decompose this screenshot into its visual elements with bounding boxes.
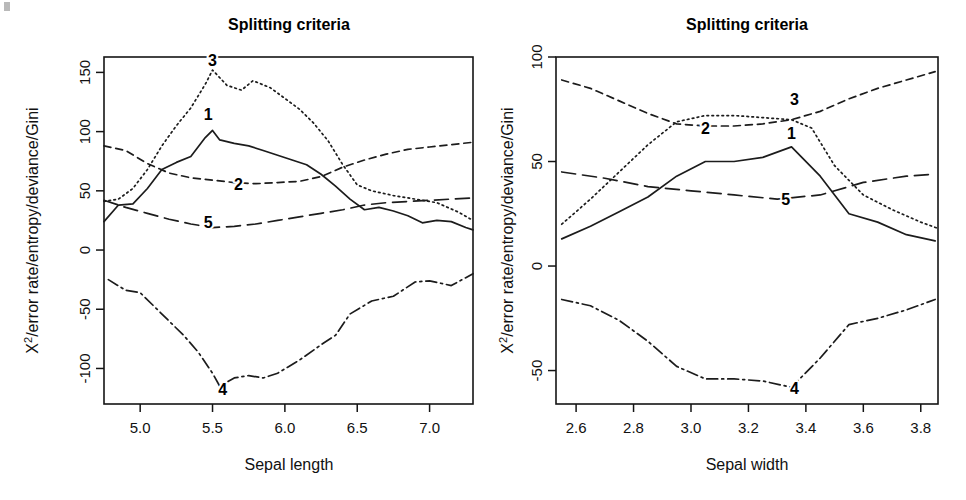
y-axis-tick-label: -50 [76,298,93,320]
plot-box [556,57,938,404]
series-label-1: 1 [204,106,213,123]
series-line-1 [104,130,473,229]
y-axis-tick-label: -100 [76,353,93,383]
series-label-3: 3 [208,52,217,69]
chart-panel-sepal-width: 2.62.83.03.23.43.63.8-50050100Splitting … [483,0,966,500]
y-axis-title: X2/error rate/entropy/deviance/Gini [22,107,41,353]
series-label-3: 3 [790,91,799,108]
chart-title: Splitting criteria [686,16,808,33]
chart-panel-sepal-length: 5.05.56.06.57.0-100-50050100150Splitting… [0,0,483,500]
x-axis-tick-label: 5.5 [202,419,223,436]
series-line-2 [562,72,935,126]
series-line-5 [562,172,935,199]
y-axis-tick-label: 50 [528,153,545,170]
y-axis-tick-label: 0 [528,262,545,270]
x-axis-tick-label: 3.6 [853,419,874,436]
x-axis-tick-label: 6.5 [347,419,368,436]
scan-artifact [4,2,10,11]
chart-svg-left: 5.05.56.06.57.0-100-50050100150Splitting… [0,0,483,500]
x-axis-tick-label: 3.2 [738,419,759,436]
y-axis-tick-label: 100 [76,119,93,144]
chart-svg-right: 2.62.83.03.23.43.63.8-50050100Splitting … [483,0,966,500]
series-label-5: 5 [781,191,790,208]
x-axis-tick-label: 5.0 [130,419,151,436]
x-axis-tick-label: 2.6 [566,419,587,436]
x-axis-tick-label: 6.0 [274,419,295,436]
x-axis-title: Sepal length [245,456,334,473]
series-line-1 [562,147,935,241]
x-axis-tick-label: 3.4 [795,419,816,436]
y-axis-tick-label: 50 [76,182,93,199]
series-line-4 [108,274,473,387]
series-line-5 [104,198,473,228]
y-axis-tick-label: 0 [76,246,93,254]
series-label-5: 5 [204,214,213,231]
plot-box [104,57,473,404]
x-axis-tick-label: 2.8 [623,419,644,436]
series-label-4: 4 [790,380,799,397]
x-axis-tick-label: 7.0 [419,419,440,436]
chart-title: Splitting criteria [228,16,350,33]
y-axis-title: X2/error rate/entropy/deviance/Gini [497,107,516,353]
series-line-4 [562,299,935,387]
x-axis-title: Sepal width [706,456,789,473]
series-label-4: 4 [218,381,227,398]
series-label-2: 2 [701,120,710,137]
series-line-3 [104,70,473,220]
series-label-1: 1 [787,125,796,142]
y-axis-tick-label: -50 [528,360,545,382]
x-axis-tick-label: 3.8 [910,419,931,436]
y-axis-tick-label: 100 [528,44,545,69]
y-axis-tick-label: 150 [76,60,93,85]
figure-canvas: 5.05.56.06.57.0-100-50050100150Splitting… [0,0,966,500]
series-label-2: 2 [234,176,243,193]
x-axis-tick-label: 3.0 [681,419,702,436]
